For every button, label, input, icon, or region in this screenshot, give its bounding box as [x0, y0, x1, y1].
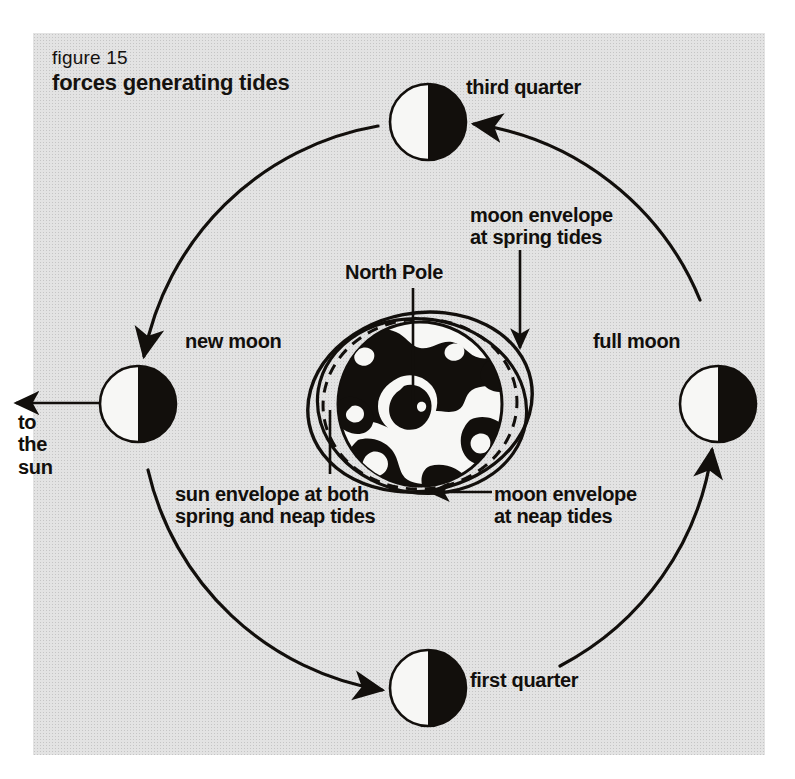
label-north-pole: North Pole — [345, 261, 443, 283]
label-sun-envelope-both: sun envelope at both spring and neap tid… — [175, 483, 375, 528]
orbit-arc-third-to-new — [144, 126, 378, 356]
moon-full — [680, 366, 756, 442]
label-first-quarter: first quarter — [470, 669, 578, 691]
label-full-moon: full moon — [593, 330, 680, 352]
label-moon-envelope-spring: moon envelope at spring tides — [470, 204, 613, 249]
moon-third-quarter — [390, 84, 466, 160]
label-moon-envelope-neap: moon envelope at neap tides — [494, 483, 637, 528]
label-new-moon: new moon — [185, 330, 282, 352]
moon-first-quarter — [390, 650, 466, 726]
moon-new — [100, 366, 176, 442]
figure-title: forces generating tides — [52, 70, 289, 96]
figure-canvas: figure 15 forces generating tides third … — [0, 0, 795, 779]
label-third-quarter: third quarter — [466, 76, 581, 98]
label-to-the-sun: to the sun — [18, 411, 53, 478]
figure-number: figure 15 — [52, 47, 128, 69]
tide-diagram-svg — [0, 0, 795, 779]
